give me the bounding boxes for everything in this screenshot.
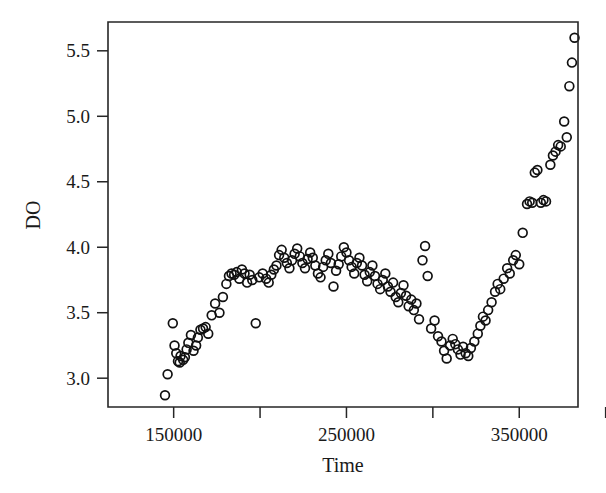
data-point: [168, 319, 177, 328]
y-tick-label: 5.0: [66, 106, 90, 127]
data-point-layer: [161, 33, 579, 399]
data-point: [505, 269, 514, 278]
data-point: [301, 264, 310, 273]
data-point: [211, 299, 220, 308]
data-point: [251, 319, 260, 328]
data-point: [546, 160, 555, 169]
y-axis-title: DO: [22, 201, 44, 230]
data-point: [560, 117, 569, 126]
data-point: [442, 354, 451, 363]
y-tick-label: 3.5: [66, 302, 90, 323]
data-point: [163, 370, 172, 379]
data-point: [245, 270, 254, 279]
data-point: [503, 264, 512, 273]
data-point: [487, 298, 496, 307]
x-axis-title: Time: [322, 454, 364, 476]
y-axis-ticks: 3.03.54.04.55.05.5: [66, 40, 108, 388]
data-point: [219, 293, 228, 302]
data-point: [215, 308, 224, 317]
x-tick-label: 350000: [491, 424, 548, 445]
data-point: [394, 298, 403, 307]
plot-canvas: 150000250000350000 3.03.54.04.55.05.5 Ti…: [0, 0, 606, 493]
data-point: [386, 287, 395, 296]
data-point: [418, 256, 427, 265]
y-tick-label: 4.5: [66, 171, 90, 192]
data-point: [329, 282, 338, 291]
y-tick-label: 4.0: [66, 237, 90, 258]
y-tick-label: 3.0: [66, 368, 90, 389]
data-point: [518, 228, 527, 237]
data-point: [511, 251, 520, 260]
data-point: [399, 281, 408, 290]
data-point: [415, 315, 424, 324]
data-point: [430, 316, 439, 325]
scatter-plot-figure: 150000250000350000 3.03.54.04.55.05.5 Ti…: [0, 0, 606, 493]
data-point: [562, 133, 571, 142]
data-point: [568, 58, 577, 67]
data-point: [476, 321, 485, 330]
x-tick-label: 150000: [145, 424, 202, 445]
x-axis-ticks: 150000250000350000: [145, 407, 605, 445]
data-point: [339, 243, 348, 252]
y-tick-label: 5.5: [66, 40, 90, 61]
data-point: [161, 391, 170, 400]
data-point: [565, 82, 574, 91]
x-tick-label: 250000: [318, 424, 375, 445]
data-point: [421, 242, 430, 251]
data-point: [423, 272, 432, 281]
